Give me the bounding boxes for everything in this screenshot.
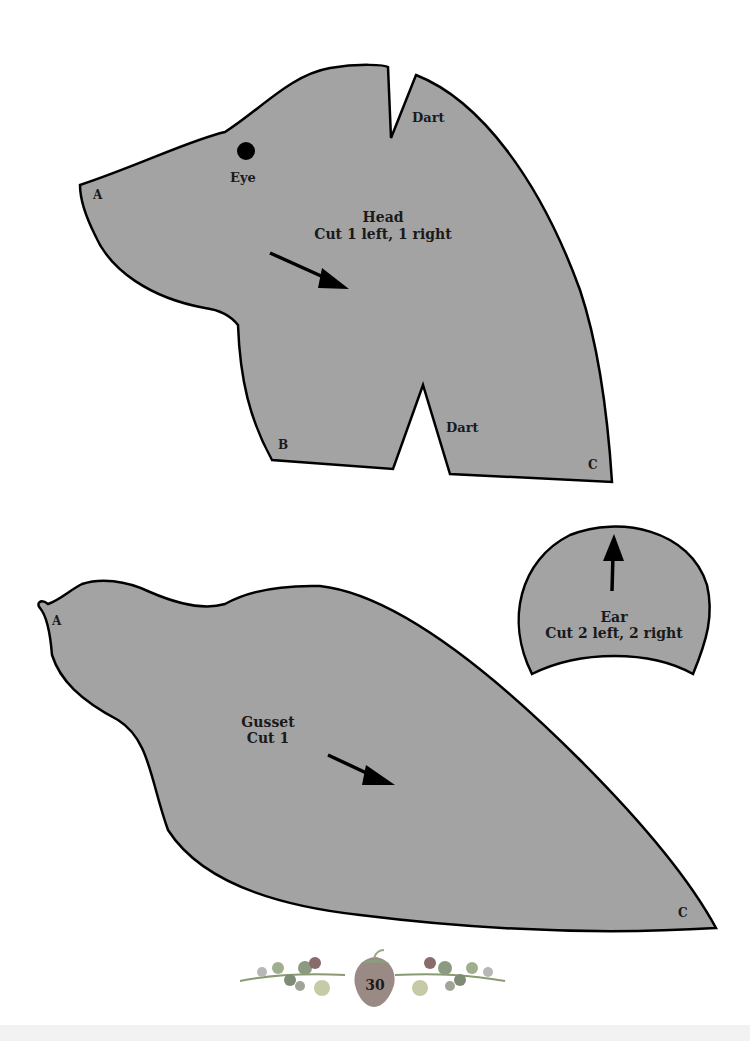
eye-marker: [237, 142, 255, 160]
head-piece: Eye A Dart Head Cut 1 left, 1 right Dart…: [80, 65, 612, 482]
head-title: Head: [363, 209, 404, 225]
ear-title: Ear: [600, 609, 628, 625]
dart-bottom-label: Dart: [446, 420, 479, 435]
footer-ornament: 30: [240, 950, 505, 1007]
head-outline: [80, 65, 612, 482]
point-b-label: B: [278, 438, 288, 452]
gusset-point-a-label: A: [51, 614, 62, 628]
head-instruction: Cut 1 left, 1 right: [314, 226, 452, 242]
ear-piece: Ear Cut 2 left, 2 right: [519, 527, 710, 674]
page-number: 30: [365, 977, 385, 993]
vine-left-icon: [240, 957, 345, 996]
scan-edge: [0, 1025, 750, 1041]
point-a-label: A: [92, 188, 103, 202]
gusset-title: Gusset: [241, 714, 295, 730]
gusset-instruction: Cut 1: [247, 730, 289, 746]
gusset-point-c-label: C: [678, 906, 688, 920]
eye-label: Eye: [230, 170, 256, 185]
pattern-page: Eye A Dart Head Cut 1 left, 1 right Dart…: [0, 0, 750, 1041]
dart-top-label: Dart: [412, 110, 445, 125]
vine-right-icon: [395, 957, 505, 996]
point-c-label: C: [588, 458, 598, 472]
ear-instruction: Cut 2 left, 2 right: [545, 625, 683, 641]
